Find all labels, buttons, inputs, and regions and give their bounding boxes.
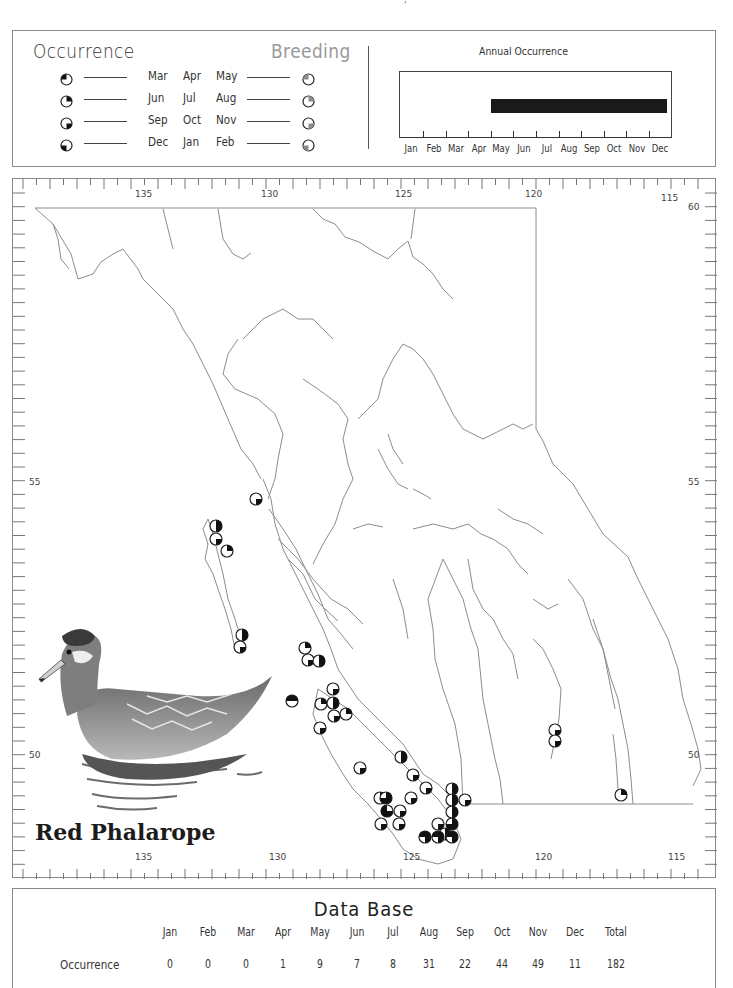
lat-label-right-60: 60 [688,202,699,212]
annual-month-label: Jun [515,143,534,154]
database-cell: 22 [452,957,479,971]
database-column-header: Jun [344,925,371,939]
pie-quarter-top-right-icon [60,93,73,112]
annual-month-label: Oct [605,143,624,154]
database-title: Data Base [48,897,680,921]
occurrence-marker [549,735,561,747]
occurrence-marker [395,751,407,763]
database-cell: 0 [195,957,222,971]
legend-month: Nov [216,112,236,127]
legend-month: May [216,68,238,83]
annual-month-label: Aug [560,143,579,154]
lon-label-bottom-130: 130 [269,852,286,862]
database-panel: Data Base JanFebMarAprMayJunJulAugSepOct… [12,888,716,988]
annual-axis-tick [626,131,627,138]
database-column-header: Mar [233,925,260,939]
database-column-header: Total [603,925,630,939]
annual-axis-tick [581,131,582,138]
annual-occurrence-title: Annual Occurrence [479,45,568,58]
annual-axis-tick [604,131,605,138]
occurrence-marker [302,654,314,666]
legend-connector [84,143,127,144]
breeding-pie-quarter-top-left-icon [302,71,315,90]
breeding-pie-quarter-bottom-right-icon [302,115,315,134]
occurrence-marker [250,493,262,505]
legend-row: MarAprMay [13,67,353,87]
pie-quarter-bottom-left-icon [60,137,73,156]
breeding-title: Breeding [271,39,351,63]
annual-occurrence-chart [399,71,672,138]
legend-connector [247,99,290,100]
occurrence-marker [446,794,458,806]
annual-occurrence-bar [491,99,667,113]
database-cell: 31 [416,957,443,971]
legend-month: Jun [148,90,164,105]
legend-month: Mar [148,68,168,83]
database-cell: 0 [233,957,260,971]
legend-connector [84,77,127,78]
annual-month-label: Apr [469,143,488,154]
occurrence-marker [419,831,431,843]
database-column-header: Aug [416,925,443,939]
red-phalarope-illustration [27,624,277,824]
legend-row: DecJanFeb [13,133,353,153]
legend-connector [247,77,290,78]
database-column-header: Sep [452,925,479,939]
breeding-pie-quarter-bottom-left-icon [302,137,315,156]
database-cell: 182 [603,957,630,971]
database-column-header: May [307,925,334,939]
annual-month-label: Dec [650,143,669,154]
occurrence-marker [286,695,298,707]
occurrence-marker [340,708,352,720]
database-cell: 1 [270,957,297,971]
page-mark: ' [404,0,406,10]
occurrence-marker [375,818,387,830]
occurrence-marker [327,683,339,695]
database-cell: 9 [307,957,334,971]
database-column-header: Apr [270,925,297,939]
annual-month-label: Mar [447,143,466,154]
database-column-header: Nov [525,925,552,939]
occurrence-marker [446,831,458,843]
database-column-header: Feb [195,925,222,939]
occurrence-marker [459,794,471,806]
occurrence-title: Occurrence [33,39,135,63]
lat-label-right-55: 55 [688,477,699,487]
legend-month: Aug [216,90,236,105]
annual-month-label: Nov [628,143,647,154]
occurrence-marker [407,769,419,781]
breeding-pie-quarter-top-right-icon [302,93,315,112]
database-column-header: Dec [562,925,589,939]
legend-connector [84,121,127,122]
annual-month-label: May [492,143,511,154]
legend-row: SepOctNov [13,111,353,131]
lon-label-top-120: 120 [525,189,542,199]
occurrence-marker [393,818,405,830]
legend-month: Sep [148,112,168,127]
database-column-header: Oct [489,925,516,939]
legend-divider [368,46,369,149]
database-column-header: Jul [380,925,407,939]
occurrence-marker [405,792,417,804]
occurrence-marker [381,805,393,817]
lon-label-top-115: 115 [661,193,678,203]
occurrence-marker [327,697,339,709]
annual-month-label: Jul [537,143,556,154]
annual-axis-tick [423,131,424,138]
annual-axis-tick [649,131,650,138]
database-cell: 11 [562,957,589,971]
annual-axis-tick [559,131,560,138]
pie-quarter-top-left-icon [60,71,73,90]
legend-month: Jan [183,134,199,149]
occurrence-marker [394,805,406,817]
occurrence-marker [446,783,458,795]
occurrence-marker [354,762,366,774]
legend-row: JunJulAug [13,89,353,109]
annual-month-label: Sep [582,143,601,154]
occurrence-marker [549,724,561,736]
occurrence-marker [446,806,458,818]
annual-axis-tick [468,131,469,138]
legend-connector [247,143,290,144]
database-cell: 49 [525,957,552,971]
occurrence-marker [432,831,444,843]
